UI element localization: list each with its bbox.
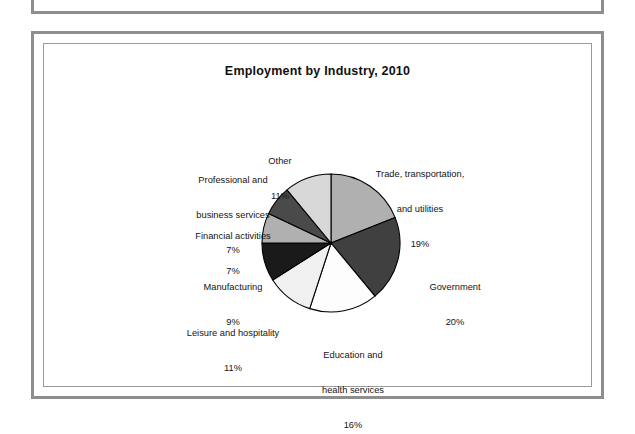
slice-label-leisure: Leisure and hospitality 11%: [163, 305, 303, 398]
slice-label-leisure-name: Leisure and hospitality: [163, 328, 303, 340]
slice-label-government: Government 20%: [402, 259, 508, 352]
pie-chart-plot: Other 11% Trade, transportation, and uti…: [0, 0, 635, 434]
slice-label-education-name-1: Education and: [296, 350, 410, 362]
slice-label-education-name-2: health services: [296, 385, 410, 397]
slice-label-trade-name-2: and utilities: [352, 204, 488, 216]
slice-label-leisure-value: 11%: [163, 363, 303, 375]
slice-label-professional-name-1: Professional and: [168, 175, 298, 187]
slice-label-government-name: Government: [402, 282, 508, 294]
slice-label-trade-name-1: Trade, transportation,: [352, 169, 488, 181]
slice-label-education: Education and health services 16%: [296, 327, 410, 434]
slice-label-manufacturing-name: Manufacturing: [178, 282, 288, 294]
slice-label-education-value: 16%: [296, 420, 410, 432]
slice-label-trade-value: 19%: [352, 239, 488, 251]
slice-label-financial-name: Financial activities: [168, 231, 298, 243]
slice-label-government-value: 20%: [402, 317, 508, 329]
slice-label-trade: Trade, transportation, and utilities 19%: [352, 146, 488, 274]
